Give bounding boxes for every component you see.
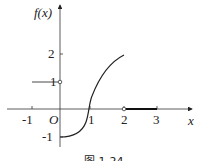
x-tick-label: 2 bbox=[121, 112, 128, 127]
x-axis-label: x bbox=[187, 113, 194, 128]
origin-label: O bbox=[49, 112, 59, 127]
y-ticks bbox=[60, 54, 63, 137]
x-tick-label: 3 bbox=[153, 112, 160, 127]
open-point-2-0 bbox=[122, 107, 126, 111]
function-graph: f(x) x O -1 1 2 3 2 1 -1 图 1-24 bbox=[0, 0, 198, 161]
y-tick-label: 2 bbox=[48, 46, 55, 61]
open-point-0-1 bbox=[58, 80, 62, 84]
figure-caption: 图 1-24 bbox=[84, 155, 123, 161]
y-tick-label: 1 bbox=[50, 74, 57, 89]
y-axis-label: f(x) bbox=[34, 5, 52, 20]
x-tick-label: -1 bbox=[22, 112, 33, 127]
x-tick-label: 1 bbox=[88, 112, 95, 127]
y-tick-label: -1 bbox=[42, 129, 53, 144]
